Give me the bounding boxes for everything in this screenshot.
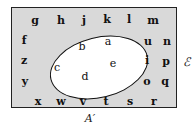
- complement-element: o: [143, 76, 150, 87]
- set_A-element: e: [110, 58, 117, 69]
- complement-element: k: [103, 14, 111, 25]
- set_A-element: c: [54, 62, 60, 73]
- complement-element: v: [80, 96, 86, 107]
- complement-element: q: [161, 76, 169, 87]
- complement-element: r: [151, 96, 157, 107]
- complement-element: z: [21, 55, 27, 66]
- complement-element: x: [35, 96, 42, 107]
- complement-element: l: [127, 14, 131, 25]
- complement-element: n: [163, 36, 171, 47]
- complement-element: p: [162, 56, 170, 67]
- complement-element: j: [82, 15, 86, 26]
- complement-element: y: [22, 76, 28, 87]
- complement-element: h: [57, 15, 65, 26]
- universal-set-label: ℰ: [183, 55, 190, 69]
- set_A-element: a: [105, 36, 112, 47]
- complement-element: g: [31, 15, 39, 26]
- set_A-element: d: [81, 71, 88, 82]
- set_A-element: b: [78, 41, 85, 52]
- complement-element: s: [127, 96, 133, 107]
- complement-element: m: [147, 15, 159, 26]
- complement-element: w: [56, 96, 65, 107]
- complement-label: A′: [85, 112, 95, 125]
- complement-element: t: [103, 96, 108, 107]
- complement-element: i: [145, 55, 149, 66]
- complement-element: f: [22, 35, 27, 46]
- complement-element: u: [144, 36, 152, 47]
